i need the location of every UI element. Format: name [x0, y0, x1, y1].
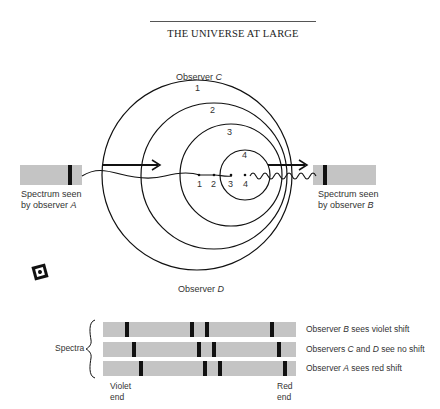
spectra-row-label-a: Observer A sees red shift — [306, 363, 402, 373]
spectrum-row-b — [103, 322, 296, 337]
source-dot-4 — [244, 174, 247, 177]
observer-c-label: Observer C — [176, 72, 222, 83]
wavefront-1 — [102, 80, 292, 270]
spectra-row-label-cd: Observers C and D see no shift — [306, 344, 425, 354]
spectrum-a-bar — [20, 165, 82, 185]
registration-mark-icon — [31, 263, 48, 280]
wavefront-label-1: 1 — [195, 83, 200, 94]
wavefront-label-2: 2 — [210, 105, 215, 116]
violet-end-label: Violetend — [110, 381, 131, 403]
wavefront-label-3: 3 — [227, 127, 232, 138]
spectrum-b-line — [323, 165, 327, 185]
spectrum-b-bar — [313, 165, 376, 185]
wavefront-label-4: 4 — [242, 150, 247, 161]
source-label-3: 3 — [228, 179, 233, 190]
spectrum-a-line — [68, 165, 72, 185]
spectrum-a-caption: Spectrum seenby observer A — [21, 189, 82, 211]
spectra-row-label-b: Observer B sees violet shift — [306, 324, 409, 334]
source-dot-3 — [230, 174, 233, 177]
source-label-4: 4 — [243, 179, 248, 190]
spectra-group-label: Spectra — [55, 343, 84, 353]
brace-icon — [86, 320, 95, 378]
source-dot-1 — [198, 174, 201, 177]
observer-d-label: Observer D — [178, 284, 224, 295]
source-dot-2 — [213, 174, 216, 177]
spectrum-b-caption: Spectrum seenby observer B — [318, 189, 379, 211]
spectrum-row-a — [103, 361, 296, 376]
red-end-label: Redend — [277, 381, 293, 403]
redshifted-wave — [82, 171, 232, 179]
source-label-1: 1 — [197, 179, 202, 190]
blueshifted-wave — [250, 173, 316, 179]
source-label-2: 2 — [211, 179, 216, 190]
